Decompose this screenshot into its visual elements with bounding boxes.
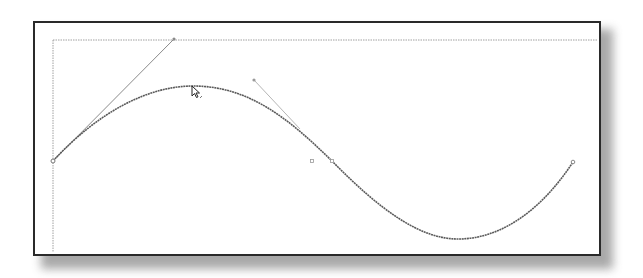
drawing-canvas[interactable] (0, 0, 643, 278)
direct-selection-cursor-icon (192, 86, 202, 98)
anchor-points (51, 159, 575, 164)
handle-point-middle[interactable] (252, 78, 255, 81)
direction-handles (53, 37, 300, 161)
anchor-point-start[interactable] (51, 159, 55, 163)
center-point-marker (311, 160, 314, 163)
handle-point-start[interactable] (172, 37, 175, 40)
handle-line-start[interactable] (53, 39, 174, 161)
anchor-point-middle[interactable] (331, 160, 334, 163)
anchor-point-end[interactable] (571, 160, 575, 164)
